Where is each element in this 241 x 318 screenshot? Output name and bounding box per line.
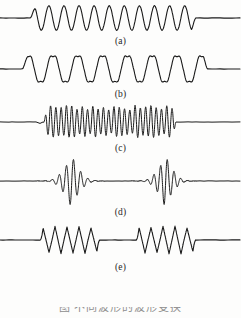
panel-label-c: (c) [0,144,241,154]
panel-label-d: (d) [0,208,241,218]
panel-label-a: (a) [0,37,241,47]
trace-path-a [0,6,240,31]
panel-label-e: (e) [0,263,241,273]
panel-b: (b) [0,49,241,100]
waveform-trace-a [0,1,241,35]
waveform-trace-b [0,49,241,89]
panel-a: (a) [0,1,241,47]
waveform-svg-d [0,156,241,206]
waveform-svg-a [0,1,241,35]
trace-path-e [0,226,240,254]
waveform-trace-d [0,156,241,206]
trace-path-b [0,55,240,81]
waveform-trace-e [0,219,241,261]
panel-d: (d) [0,156,241,218]
trace-path-d [0,159,240,204]
trace-path-c [0,105,240,137]
figure-caption-text: 图 不同波形的波形变换 [0,307,241,314]
panel-e: (e) [0,219,241,273]
waveform-svg-b [0,49,241,89]
figure-caption-clipped: 图 不同波形的波形变换 [0,307,241,318]
waveform-trace-c [0,101,241,143]
waveform-figure: (a) (b) (c) (d) [0,0,241,318]
panel-label-b: (b) [0,90,241,100]
waveform-svg-e [0,219,241,261]
panel-c: (c) [0,101,241,154]
waveform-svg-c [0,101,241,143]
